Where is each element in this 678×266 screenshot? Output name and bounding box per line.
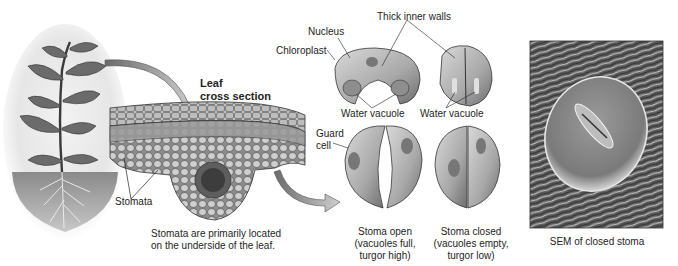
sem-image (529, 41, 663, 228)
stoma-closed-caption-line1: Stoma closed (428, 226, 514, 238)
stoma-closed-caption: Stoma closed (vacuoles empty, turgor low… (428, 226, 514, 262)
stoma-open-caption-line3: turgor high) (346, 250, 424, 262)
stoma-open-top-view (345, 126, 422, 208)
water-vacuole-closed-label: Water vacuole (420, 108, 484, 120)
stoma-closed-caption-line2: (vacuoles empty, (428, 238, 514, 250)
leaf-section-caption-line1: Stomata are primarily located (151, 228, 281, 240)
thick-inner-walls-label: Thick inner walls (377, 11, 451, 23)
stoma-open-caption: Stoma open (vacuoles full, turgor high) (346, 226, 424, 262)
leaf-section-title-line1: Leaf (200, 77, 271, 90)
plant-illustration (3, 24, 127, 240)
leaf-section-caption-line2: on the underside of the leaf. (151, 240, 281, 252)
stomata-label: Stomata (115, 196, 152, 208)
stoma-open-caption-line2: (vacuoles full, (346, 238, 424, 250)
leaf-section-title-line2: cross section (200, 90, 271, 103)
arrow-to-guard-cells (274, 170, 340, 212)
guard-cell-label-line2: cell (316, 140, 344, 152)
guard-cell-label-line1: Guard (316, 128, 344, 140)
guard-cell-label: Guard cell (316, 128, 344, 152)
stoma-open-caption-line1: Stoma open (346, 226, 424, 238)
sem-caption: SEM of closed stoma (540, 236, 654, 248)
chloroplast-label: Chloroplast (276, 45, 327, 57)
stoma-closed-caption-line3: turgor low) (428, 250, 514, 262)
guard-cells-open-3d (335, 48, 420, 104)
leaf-section-caption: Stomata are primarily located on the und… (151, 228, 281, 252)
stoma-closed-top-view (435, 126, 500, 208)
water-vacuole-open-label: Water vacuole (341, 108, 405, 120)
nucleus-label: Nucleus (308, 26, 344, 38)
leaf-section-title: Leaf cross section (200, 77, 271, 103)
